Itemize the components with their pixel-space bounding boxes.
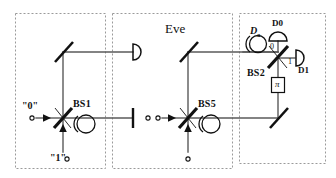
- detector-d1-glyph: [296, 50, 304, 66]
- input-port-0-marker: [30, 116, 34, 120]
- arrow-alice-input1: [59, 124, 67, 132]
- bs1-label: BS1: [73, 99, 91, 109]
- input-0-label: "0": [22, 101, 38, 111]
- input-port-eve-bottom-marker: [186, 157, 190, 161]
- phase-shifter-label: π: [275, 80, 280, 89]
- arrow-eve-input-bottom: [184, 124, 192, 132]
- delay-loop-da-label: Da: [250, 26, 260, 38]
- alice-panel-border: [16, 14, 106, 169]
- arrow-eve-input: [168, 114, 176, 122]
- eve-panel-label: Eve: [165, 22, 185, 35]
- input-1-label: "1": [50, 153, 66, 163]
- bs5-label: BS5: [198, 99, 216, 109]
- input-port-eve-left-marker: [156, 116, 160, 120]
- da-subscript: a: [257, 32, 260, 38]
- bs2-label: BS2: [247, 68, 265, 78]
- detector-alice-top-glyph: [133, 44, 141, 60]
- figure-canvas: Eve BS1 BS5 BS2 D0 D1 Da 0 1 "0" "1" π: [0, 0, 336, 178]
- eve-panel-border: [113, 14, 233, 169]
- mirrors: [55, 42, 288, 128]
- delay-loop-da-glyph: [246, 36, 267, 53]
- port-1-label: 1: [288, 58, 292, 66]
- arrow-alice-input0: [43, 114, 51, 122]
- port-0-label: 0: [270, 43, 274, 51]
- detector-d1-label: D1: [298, 66, 309, 75]
- beam-stop-port-marker: [146, 116, 150, 120]
- detector-d0-glyph: [269, 32, 287, 41]
- detector-d0-label: D0: [272, 19, 283, 28]
- beam-paths: [36, 41, 295, 152]
